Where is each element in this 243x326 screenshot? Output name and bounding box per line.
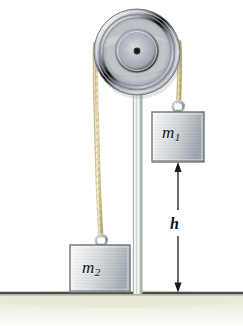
figure-canvas	[0, 0, 243, 326]
pulley	[94, 9, 182, 99]
mass-label-m2: m2	[82, 258, 100, 278]
mass-label-m1-subscript: 1	[175, 131, 181, 143]
mass-label-m2-subscript: 2	[95, 266, 101, 278]
height-label-h: h	[170, 215, 179, 233]
ground	[0, 290, 243, 326]
mass-label-m2-base: m	[82, 258, 94, 277]
physics-figure-atwood-machine: m1 m2 h	[0, 0, 243, 326]
pulley-axle-center	[135, 49, 139, 53]
mass-label-m1-base: m	[162, 123, 174, 142]
block-m1-ring-hole	[175, 103, 182, 110]
mass-label-m1: m1	[162, 123, 180, 143]
block-m2-ring-hole	[98, 237, 105, 244]
height-arrow-head-top	[174, 162, 181, 172]
